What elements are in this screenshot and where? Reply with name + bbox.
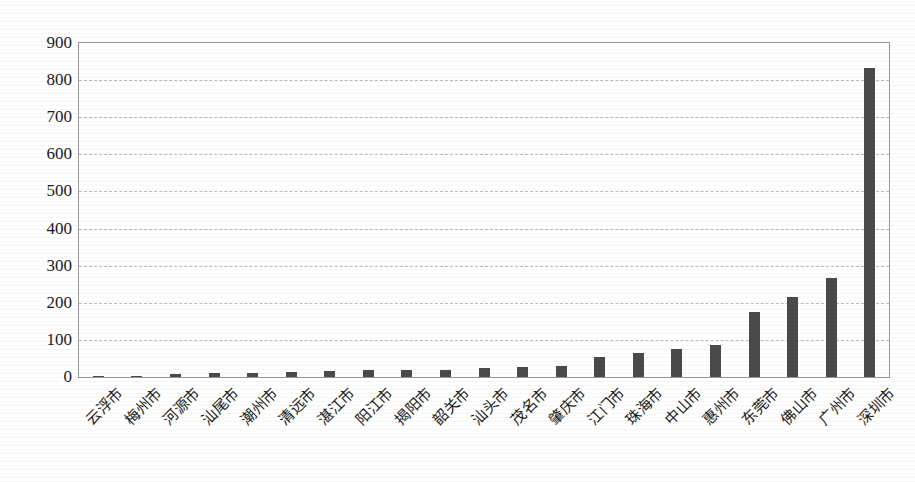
y-axis-tick-label: 200 [0,293,72,313]
y-axis-tick-label: 700 [0,107,72,127]
x-axis-tick-label: 揭阳市 [389,382,436,429]
x-axis-tick-label: 汕尾市 [196,382,243,429]
bar [440,370,451,377]
x-axis-tick-label: 佛山市 [775,382,822,429]
bar [864,68,875,377]
x-axis-tick-label: 梅州市 [119,382,166,429]
bar [131,376,142,378]
bar [749,312,760,377]
bar [479,368,490,377]
bar [324,371,335,377]
bar [556,366,567,377]
bars-group [79,43,889,377]
bar [401,370,412,377]
bar [209,373,220,377]
x-axis-tick-label: 云浮市 [80,382,127,429]
x-axis-tick-label: 河源市 [158,382,205,429]
bar [363,370,374,377]
x-axis-tick-label: 阳江市 [350,382,397,429]
x-axis-tick-label: 潮州市 [235,382,282,429]
bar [247,373,258,377]
y-axis-tick-label: 400 [0,219,72,239]
bar [170,374,181,377]
y-axis-tick-label: 500 [0,181,72,201]
bar [826,278,837,377]
bar [671,349,682,377]
bar [286,372,297,377]
bar [633,353,644,377]
x-axis-tick-label: 韶关市 [428,382,475,429]
bar [517,367,528,377]
bar [594,357,605,377]
x-axis-labels: 云浮市梅州市河源市汕尾市潮州市清远市湛江市阳江市揭阳市韶关市汕头市茂名市肇庆市江… [0,378,915,482]
x-axis-tick-label: 清远市 [273,382,320,429]
x-axis-tick-label: 珠海市 [620,382,667,429]
bar [787,297,798,377]
x-axis-tick-label: 汕头市 [466,382,513,429]
x-axis-tick-label: 东莞市 [736,382,783,429]
bar [710,345,721,377]
x-axis-tick-label: 中山市 [659,382,706,429]
x-axis-tick-label: 湛江市 [312,382,359,429]
x-axis-tick-label: 肇庆市 [543,382,590,429]
y-axis-tick-label: 900 [0,33,72,53]
x-axis-tick-label: 广州市 [813,382,860,429]
y-axis-tick-label: 100 [0,330,72,350]
y-axis-tick-label: 600 [0,144,72,164]
x-axis-tick-label: 江门市 [582,382,629,429]
x-axis-tick-label: 惠州市 [698,382,745,429]
bar [93,376,104,378]
x-axis-tick-label: 深圳市 [852,382,899,429]
x-axis-tick-label: 茂名市 [505,382,552,429]
y-axis-tick-label: 300 [0,256,72,276]
y-axis-tick-label: 800 [0,70,72,90]
bar-chart: 0100200300400500600700800900 云浮市梅州市河源市汕尾… [0,0,915,482]
